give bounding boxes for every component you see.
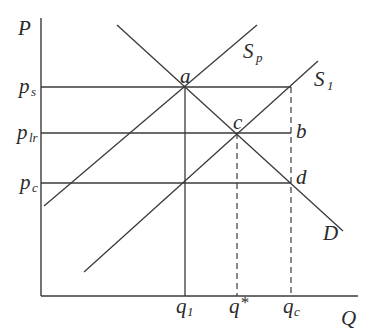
label-q1: q 1 [176, 294, 194, 319]
demand-curve [117, 25, 343, 231]
label-qc-sub: c [294, 304, 300, 319]
label-q1-base: q [176, 294, 187, 318]
label-qc: q c [283, 294, 300, 319]
label-pc: p c [18, 170, 38, 195]
point-label-b: b [296, 119, 307, 143]
label-s1-sub: 1 [327, 78, 334, 93]
label-q1-sub: 1 [187, 304, 194, 319]
label-demand: D [322, 221, 338, 245]
label-plr: p lr [15, 120, 39, 145]
label-ps-base: p [17, 74, 30, 98]
supply-demand-diagram: P Q p s p lr p c q 1 q * q c S p S 1 D a… [0, 0, 374, 333]
label-s1: S 1 [314, 67, 334, 93]
label-pc-base: p [18, 170, 31, 194]
label-sp-sub: p [255, 50, 263, 65]
label-qstar-base: q [229, 294, 240, 318]
label-qstar: q * [229, 293, 249, 318]
point-label-c: c [233, 110, 243, 134]
label-qstar-sup: * [240, 293, 249, 312]
label-ps-sub: s [31, 84, 36, 99]
supply-curve-sp [44, 25, 257, 206]
label-plr-sub: lr [29, 130, 39, 145]
label-qc-base: q [283, 294, 294, 318]
x-axis-label: Q [341, 306, 356, 330]
supply-curve-s1 [84, 61, 318, 272]
label-pc-sub: c [32, 180, 38, 195]
point-label-d: d [296, 165, 307, 189]
label-plr-base: p [15, 120, 28, 144]
label-sp-base: S [243, 39, 254, 63]
label-ps: p s [17, 74, 36, 99]
point-label-a: a [180, 64, 191, 88]
label-s1-base: S [314, 67, 325, 91]
label-sp: S p [243, 39, 263, 65]
y-axis-label: P [17, 16, 31, 40]
